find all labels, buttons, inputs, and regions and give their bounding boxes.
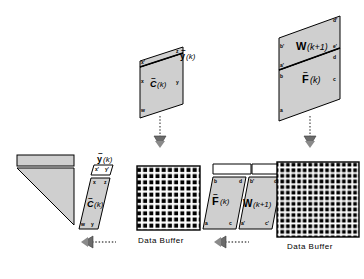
arrow-down-left-shape bbox=[154, 116, 166, 148]
top-c-corner-x-prime: x' bbox=[141, 60, 145, 65]
bottom-c-corner-x-prime: x' bbox=[95, 167, 99, 172]
bottom-f-corner-d: d bbox=[239, 179, 242, 184]
bottom-c-corner-z: z bbox=[104, 180, 107, 185]
bottom-c-slanted-shape bbox=[79, 165, 113, 229]
top-wf-corner-a-prime: a' bbox=[280, 63, 284, 68]
diagram-canvas: ~ y (k) ~ C (k) x' z x y w W (k+1) ~ F (… bbox=[0, 0, 364, 279]
bottom-w-corner-c-prime: c' bbox=[265, 221, 269, 226]
top-c-corner-z: z bbox=[176, 49, 179, 54]
bottom-c-arg: (k) bbox=[94, 201, 103, 209]
top-f-arg: (k) bbox=[310, 76, 321, 85]
bottom-f-corner-a: a bbox=[205, 221, 208, 226]
bottom-y-arg: (k) bbox=[103, 156, 112, 164]
bottom-f-arg: (k) bbox=[220, 198, 229, 206]
top-w-arg: (k+1) bbox=[307, 43, 328, 52]
data-buffer-right-shape bbox=[277, 162, 359, 237]
triangular-array-shape bbox=[17, 155, 74, 225]
arrow-left-two-shape bbox=[214, 236, 249, 248]
top-wf-corner-d: d bbox=[333, 55, 336, 60]
top-y-label: y bbox=[180, 52, 185, 61]
bottom-w-corner-d-prime: d' bbox=[274, 179, 278, 184]
top-y-arg: (k) bbox=[186, 53, 195, 61]
top-c-corner-x: x bbox=[141, 79, 144, 84]
bottom-w-label: W bbox=[243, 199, 252, 209]
bottom-f-corner-c: c bbox=[229, 221, 232, 226]
bottom-c-corner-y-prime: y' bbox=[105, 167, 109, 172]
bottom-w-corner-a-prime: a' bbox=[241, 221, 245, 226]
top-c-label: C bbox=[150, 80, 157, 89]
data-buffer-left-shape bbox=[137, 166, 200, 230]
data-buffer-left-label: Data Buffer bbox=[138, 237, 184, 245]
arrow-down-right-shape bbox=[304, 116, 316, 148]
top-wf-corner-b: b bbox=[280, 74, 283, 79]
top-c-corner-w: w bbox=[141, 108, 145, 113]
bottom-c-corner-y: y bbox=[91, 222, 94, 227]
bottom-w-corner-b-prime: b' bbox=[250, 179, 254, 184]
top-c-arg: (k) bbox=[157, 81, 166, 89]
bottom-y-label: y bbox=[97, 155, 102, 164]
top-right-wf-panel-shape bbox=[279, 16, 340, 121]
bottom-f-label: F bbox=[212, 196, 219, 207]
bottom-c-corner-x: x bbox=[93, 180, 96, 185]
bottom-c-label: C bbox=[87, 200, 94, 209]
top-c-corner-y: y bbox=[176, 80, 179, 85]
arrow-left-one-shape bbox=[81, 236, 116, 248]
data-buffer-right-label: Data Buffer bbox=[287, 243, 333, 251]
top-wf-corner-c: c bbox=[333, 77, 336, 82]
bottom-f-corner-b: b bbox=[214, 179, 217, 184]
top-w-label: W bbox=[296, 41, 306, 52]
bottom-c-corner-w: w bbox=[81, 222, 85, 227]
top-wf-corner-e-prime: e' bbox=[333, 44, 337, 49]
top-wf-corner-b-prime: b' bbox=[280, 44, 284, 49]
top-f-label: F bbox=[302, 74, 309, 85]
top-wf-corner-a: a bbox=[280, 108, 283, 113]
top-wf-corner-d-prime: d' bbox=[333, 18, 337, 23]
bottom-w-arg: (k+1) bbox=[253, 201, 271, 209]
